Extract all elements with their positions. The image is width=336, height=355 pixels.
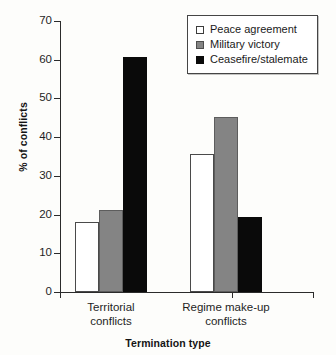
x-axis-tick: [60, 292, 61, 298]
y-axis-tick-label: 10: [10, 247, 52, 258]
y-axis-tick-label: 20: [10, 209, 52, 220]
y-axis-tick-label: 70: [10, 15, 52, 26]
legend-swatch-military-victory: [196, 41, 204, 49]
x-axis-line: [60, 292, 313, 293]
x-axis-tick: [232, 292, 233, 298]
legend-item-military-victory: Military victory: [196, 37, 308, 52]
y-axis-tick-label: 50: [10, 92, 52, 103]
bar-peace-agreement: [75, 222, 99, 292]
y-axis-tick-label: 60: [10, 54, 52, 65]
legend-item-label: Peace agreement: [210, 24, 297, 35]
bar-chart-figure: % of conflicts 010203040506070 Territori…: [0, 0, 336, 355]
x-axis-tick: [313, 292, 314, 298]
y-axis-tick-label: 40: [10, 131, 52, 142]
bar-peace-agreement: [190, 154, 214, 292]
legend-item-peace-agreement: Peace agreement: [196, 22, 308, 37]
legend: Peace agreementMilitary victoryCeasefire…: [187, 15, 318, 74]
legend-item-label: Military victory: [210, 39, 280, 50]
bar-ceasefire-stalemate: [123, 57, 147, 292]
x-axis-category-label-line: conflicts: [46, 314, 176, 328]
bar-ceasefire-stalemate: [238, 217, 262, 292]
y-axis-tick-label: 30: [10, 170, 52, 181]
legend-item-ceasefire-stalemate: Ceasefire/stalemate: [196, 52, 308, 67]
legend-swatch-peace-agreement: [196, 26, 204, 34]
y-axis-tick-label: 0: [10, 286, 52, 297]
legend-swatch-ceasefire-stalemate: [196, 56, 204, 64]
x-axis-category-label: Regime make-upconflicts: [161, 300, 291, 328]
x-axis-category-label-line: Regime make-up: [161, 300, 291, 314]
x-axis-category-label: Territorialconflicts: [46, 300, 176, 328]
legend-item-label: Ceasefire/stalemate: [210, 54, 308, 65]
bar-military-victory: [99, 210, 123, 292]
x-axis-category-label-line: Territorial: [46, 300, 176, 314]
x-axis-title: Termination type: [0, 337, 336, 349]
bar-military-victory: [214, 117, 238, 292]
x-axis-category-label-line: conflicts: [161, 314, 291, 328]
